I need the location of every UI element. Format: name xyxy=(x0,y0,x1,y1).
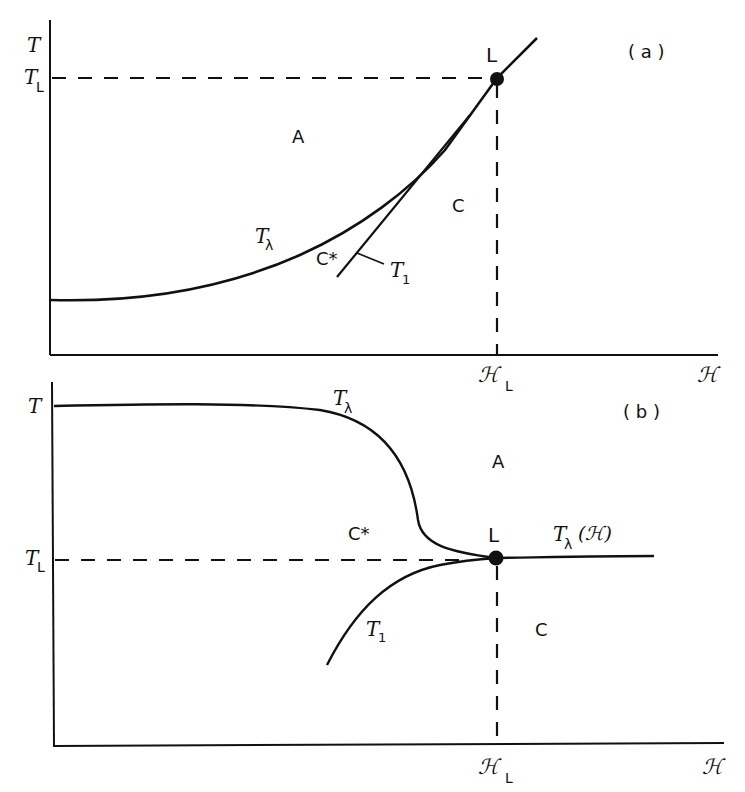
panel-b-tag: ( b ) xyxy=(623,401,660,422)
panel-b-region-c-star: C* xyxy=(348,523,370,544)
panel-b-t-lambda-sub: λ xyxy=(344,400,352,416)
panel-b-x-axis-label: ℋ xyxy=(702,755,726,779)
panel-b-t-lambda-h-curve xyxy=(496,556,654,558)
panel-a-t-lambda-sub: λ xyxy=(265,237,273,253)
panel-b-region-a: A xyxy=(492,451,505,472)
panel-a-region-a: A xyxy=(292,126,305,147)
panel-b-hl-label: ℋ xyxy=(478,755,502,779)
panel-a-t1-leader xyxy=(357,253,384,264)
panel-b: T T L ( b ) L A C C* T λ T λ (ℋ) T 1 ℋ L… xyxy=(25,382,726,786)
panel-b-tl-sub: L xyxy=(37,559,45,575)
panel-b-t1-sub: 1 xyxy=(378,630,386,645)
panel-b-point-label: L xyxy=(488,523,500,547)
panel-b-x-axis xyxy=(54,743,724,746)
panel-b-t1-curve xyxy=(327,558,496,665)
panel-b-lifshitz-point xyxy=(489,551,504,566)
panel-b-t-lambda-curve xyxy=(54,404,496,558)
panel-a-tl-sub: L xyxy=(36,79,44,95)
panel-a-hl-sub: L xyxy=(505,378,513,394)
panel-a-hl-label: ℋ xyxy=(478,363,502,387)
panel-a-region-c: C xyxy=(452,195,465,216)
phase-diagram-figure: T T L L ( a ) A C C* T λ T 1 ℋ L ℋ T T xyxy=(0,0,745,792)
panel-a-x-axis-label: ℋ xyxy=(697,363,721,387)
panel-b-hl-sub: L xyxy=(505,770,513,786)
panel-a-t1-line xyxy=(337,115,470,277)
panel-b-y-axis-label: T xyxy=(28,394,43,418)
panel-b-t-lambda-h-arg: (ℋ) xyxy=(578,522,612,544)
panel-a-t1-sub: 1 xyxy=(402,272,410,287)
panel-a-lifshitz-point xyxy=(490,72,504,86)
panel-b-y-axis xyxy=(52,382,54,747)
panel-a-point-label: L xyxy=(486,43,498,67)
panel-a-tag: ( a ) xyxy=(628,41,665,62)
panel-a-region-c-star: C* xyxy=(316,248,338,269)
panel-b-t-lambda-h-sub: λ xyxy=(564,536,572,552)
panel-a: T T L L ( a ) A C C* T λ T 1 ℋ L ℋ xyxy=(24,20,721,394)
panel-b-region-c: C xyxy=(535,619,548,640)
panel-a-y-axis-label: T xyxy=(27,33,42,57)
